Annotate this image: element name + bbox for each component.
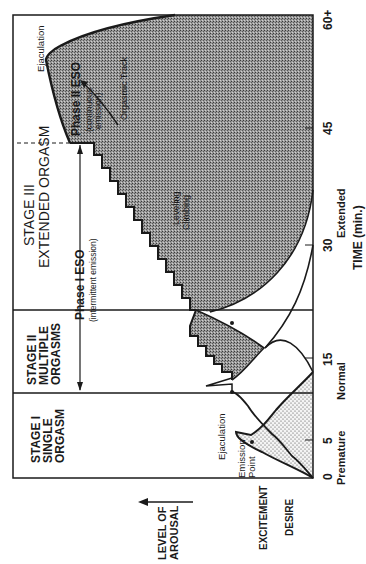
tick-30: 30 [321, 238, 335, 252]
stage1-2-marker [230, 390, 234, 394]
excitement-label: EXCITEMENT [258, 486, 269, 550]
label-normal: Normal [335, 362, 347, 400]
long-arc-1 [265, 340, 313, 372]
sexual-response-chart: 0 5 15 30 45 60+ Premature Normal Extend… [0, 0, 366, 564]
emission-label-2: Point [246, 456, 257, 478]
phase1-arrowhead-top [77, 145, 83, 154]
tick-15: 15 [321, 352, 335, 366]
tick-45: 45 [321, 121, 335, 135]
arousal-label-1: LEVEL OF [156, 506, 168, 560]
ejaculation-label-stage3: Ejaculation [35, 26, 46, 72]
label-premature: Premature [335, 431, 347, 485]
stage1-sub2: ORGASM [53, 409, 67, 463]
arousal-arrowhead [138, 498, 148, 506]
stage2-sub2: ORGASMS [49, 323, 63, 385]
stage3-title: STAGE III [21, 184, 37, 246]
phase1-arrowhead-bottom [77, 382, 83, 391]
orgasmic-track-label: Orgasmic Track [119, 56, 129, 120]
phase2-label: Phase II ESO [69, 62, 83, 136]
climbing-label: Climbing [181, 195, 191, 230]
time-axis-title: TIME (min.) [351, 205, 365, 270]
ejaculation-label-stage1: Ejaculation [216, 414, 227, 460]
tick-0: 0 [321, 473, 335, 480]
stage2-spike [206, 378, 232, 392]
tick-5: 5 [321, 437, 335, 444]
phase1-label: Phase I ESO [73, 249, 87, 320]
stage2-marker [230, 321, 234, 325]
phase2-sublabel-2: emission) [93, 92, 103, 129]
emission-point-marker [250, 440, 254, 444]
tick-60: 60+ [321, 10, 335, 30]
phase1-sublabel: (intermittent emission) [88, 238, 98, 322]
leveling-label: Leveling [171, 191, 181, 225]
label-extended: Extended [335, 188, 347, 238]
arousal-label-2: AROUSAL [168, 505, 180, 560]
desire-label: DESIRE [284, 498, 295, 536]
stage3-sub: EXTENDED ORGASM [36, 126, 52, 268]
